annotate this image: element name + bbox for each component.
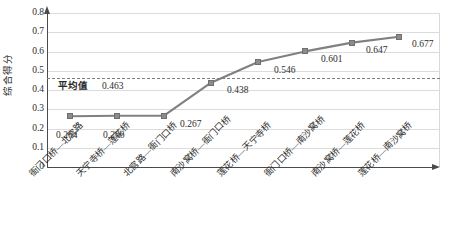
y-tick-label: 0.8: [4, 8, 44, 18]
y-tick-label: 0.1: [4, 143, 44, 153]
gridline-0.3: [47, 109, 439, 110]
data-point-marker: [161, 113, 167, 119]
data-value-label: 0.677: [412, 40, 433, 50]
data-point-marker: [67, 113, 73, 119]
data-value-label: 0.601: [321, 55, 342, 65]
gridline-0.5: [47, 71, 439, 72]
average-annotation: 平均值0.463: [58, 82, 123, 92]
data-value-label: 0.267: [180, 120, 201, 130]
y-axis-line: [47, 13, 48, 167]
average-value: 0.463: [102, 81, 123, 91]
average-label: 平均值: [58, 81, 88, 91]
data-point-marker: [114, 113, 120, 119]
x-axis-arrow-icon: [432, 164, 440, 170]
gridline-0.7: [47, 32, 439, 33]
data-value-label: 0.438: [227, 86, 248, 96]
data-value-label: 0.647: [366, 46, 387, 56]
data-point-marker: [396, 34, 402, 40]
chart-container: 0.8 0.7 0.6 0.5 0.4 0.3 0.2 0.1 0 综合得分 平…: [0, 0, 449, 252]
x-axis-line: [47, 167, 433, 168]
y-axis-title: 综合得分: [4, 49, 14, 101]
data-point-marker: [255, 59, 261, 65]
data-point-marker: [302, 48, 308, 54]
average-reference-line: [47, 78, 440, 79]
y-tick-label: 0.7: [4, 28, 44, 38]
gridline-0.8: [47, 13, 439, 14]
y-tick-label: 0.2: [4, 124, 44, 134]
y-axis-arrow-icon: [44, 6, 50, 14]
y-tick-label: 0.3: [4, 105, 44, 115]
data-point-marker: [349, 40, 355, 46]
data-point-marker: [208, 80, 214, 86]
data-value-label: 0.546: [274, 66, 295, 76]
